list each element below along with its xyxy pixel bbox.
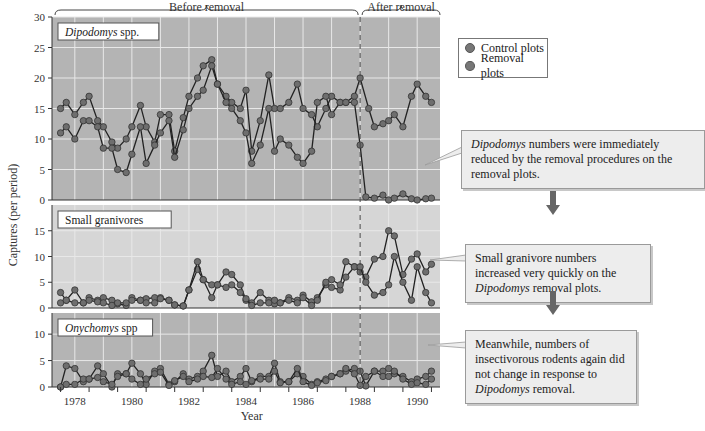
data-point [428, 99, 434, 105]
data-point [123, 136, 129, 142]
data-point [314, 297, 320, 303]
data-point [391, 195, 397, 201]
data-point [363, 373, 369, 379]
data-point [385, 228, 391, 234]
data-point [323, 105, 329, 111]
data-point [57, 289, 63, 295]
data-point [351, 371, 357, 377]
panel-label: Dipodomys spp. [64, 26, 139, 39]
data-point [300, 105, 306, 111]
data-point [186, 287, 192, 293]
data-point [72, 300, 78, 306]
data-point [365, 105, 371, 111]
data-point [137, 381, 143, 387]
data-point [371, 292, 377, 298]
data-point [414, 251, 420, 257]
data-point [300, 295, 306, 301]
data-point [351, 99, 357, 105]
y-tick-label: 15 [34, 103, 46, 115]
data-point [129, 360, 135, 366]
data-point [328, 276, 334, 282]
legend: Control plots Removal plots [458, 38, 548, 78]
data-point [100, 371, 106, 377]
data-point [257, 118, 263, 124]
y-tick-label: 5 [40, 276, 46, 288]
before-removal-label: Before removal [169, 0, 245, 14]
data-point [123, 371, 129, 377]
circle-marker-icon [465, 43, 475, 53]
data-point [237, 105, 243, 111]
data-point [243, 365, 249, 371]
data-point [94, 374, 100, 380]
data-point [72, 381, 78, 387]
data-point [72, 287, 78, 293]
data-point [157, 111, 163, 117]
x-tick-label: 1980 [121, 395, 144, 407]
data-point [391, 233, 397, 239]
callout-text: removal plots. [530, 281, 602, 295]
data-point [357, 382, 363, 388]
data-point [57, 105, 63, 111]
data-point [63, 297, 69, 303]
data-point [129, 297, 135, 303]
data-point [385, 282, 391, 288]
data-point [137, 124, 143, 130]
down-arrow-icon [546, 291, 560, 315]
data-point [86, 297, 92, 303]
callout-dipodomys: Dipodomys numbers were immediately reduc… [461, 130, 705, 189]
data-point [209, 295, 215, 301]
callout-onychomys: Meanwhile, numbers of insectivorous rode… [465, 330, 637, 404]
data-point [371, 195, 377, 201]
data-point [380, 289, 386, 295]
data-point [286, 142, 292, 148]
x-tick-label: 1982 [178, 395, 200, 407]
data-point [80, 99, 86, 105]
y-tick-label: 0 [40, 381, 46, 393]
data-point [123, 169, 129, 175]
panel-label: Small granivores [65, 214, 144, 227]
data-point [194, 75, 200, 81]
data-point [257, 376, 263, 382]
callout-text: removal. [530, 382, 575, 396]
data-point [300, 160, 306, 166]
data-point [408, 93, 414, 99]
data-point [323, 93, 329, 99]
data-point [63, 124, 69, 130]
data-point [171, 302, 177, 308]
data-point [314, 380, 320, 386]
data-point [129, 124, 135, 130]
data-point [271, 360, 277, 366]
data-point [209, 374, 215, 380]
data-point [414, 81, 420, 87]
data-point [428, 195, 434, 201]
data-point [63, 381, 69, 387]
data-point [229, 282, 235, 288]
data-point [100, 145, 106, 151]
data-point [166, 382, 172, 388]
data-point [214, 365, 220, 371]
data-point [114, 373, 120, 379]
y-tick-label: 5 [40, 164, 46, 176]
data-point [300, 379, 306, 385]
data-point [423, 289, 429, 295]
data-point [114, 166, 120, 172]
data-point [351, 93, 357, 99]
y-tick-label: 0 [40, 302, 46, 314]
data-point [57, 130, 63, 136]
data-point [214, 282, 220, 288]
data-point [337, 282, 343, 288]
data-point [86, 93, 92, 99]
data-point [308, 302, 314, 308]
data-point [86, 118, 92, 124]
data-point [143, 300, 149, 306]
data-point [94, 299, 100, 305]
callout-italic: Dipodomys [475, 382, 530, 396]
data-point [237, 118, 243, 124]
data-point [157, 130, 163, 136]
data-point [94, 118, 100, 124]
down-arrow-icon [546, 191, 560, 215]
callout-text: Small granivore numbers increased very q… [475, 251, 616, 280]
data-point [423, 381, 429, 387]
data-point [308, 148, 314, 154]
data-point [343, 274, 349, 280]
